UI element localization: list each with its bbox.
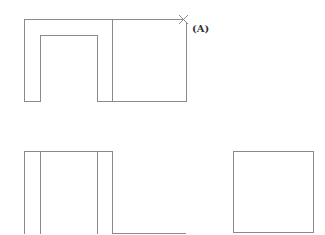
front-outline (25, 152, 186, 235)
u-shape-outline (25, 20, 187, 102)
diagram-canvas: (A) (0, 0, 325, 234)
top-view: (A) (25, 15, 210, 102)
point-a-label: (A) (192, 23, 209, 34)
side-square (234, 152, 314, 233)
side-view (234, 152, 314, 233)
front-view (25, 152, 186, 235)
